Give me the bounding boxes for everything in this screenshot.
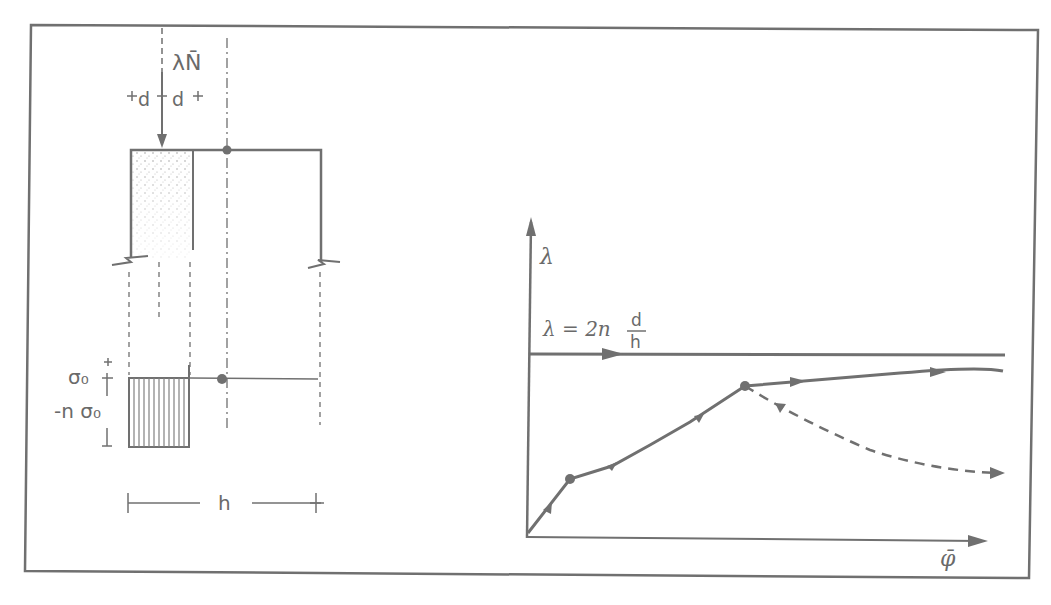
limit-line-arrow-icon — [602, 348, 624, 360]
load-label: λN̄ — [172, 50, 201, 75]
limit-line-label: λ = 2n d h — [542, 310, 646, 352]
loading-curve — [528, 386, 745, 533]
diagram-canvas: λN̄ d d — [0, 0, 1051, 605]
svg-text:d: d — [631, 310, 642, 330]
width-dimension: h — [128, 491, 324, 515]
d-dimension: d d — [127, 88, 203, 110]
x-axis-arrow-icon — [968, 535, 988, 547]
stress-block — [129, 365, 318, 447]
break-left-icon — [112, 256, 148, 265]
load-arrow-icon — [157, 134, 167, 148]
x-axis-label: φ̄ — [940, 546, 956, 571]
svg-text:h: h — [630, 332, 641, 352]
svg-text:λ = 2n: λ = 2n — [542, 317, 611, 341]
cross-section: λN̄ d d — [54, 28, 340, 515]
d-right-label: d — [172, 88, 184, 110]
sigma-top-label: σ₀ — [68, 365, 89, 389]
y-axis-label: λ — [539, 244, 554, 269]
limit-line — [530, 354, 1005, 355]
sigma-bottom-label: -n σ₀ — [54, 399, 101, 423]
y-axis-arrow-icon — [526, 217, 536, 236]
centroid-dot-top — [223, 146, 232, 155]
width-label: h — [218, 491, 231, 515]
break-right-icon — [308, 260, 340, 268]
x-axis — [527, 537, 980, 541]
compression-zone — [131, 150, 193, 258]
load-rotation-graph: λ φ̄ λ = 2n d h — [526, 217, 1005, 571]
centroid-dot-bottom — [217, 374, 227, 384]
unstable-branch — [745, 386, 995, 473]
stable-branch — [745, 369, 1003, 386]
stress-dimension: σ₀ -n σ₀ — [54, 358, 113, 446]
d-left-label: d — [138, 88, 150, 110]
y-axis — [527, 222, 531, 538]
